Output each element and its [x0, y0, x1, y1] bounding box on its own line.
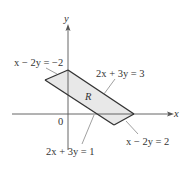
- x-axis-label: x: [173, 108, 179, 119]
- label-bottom-right: x − 2y = 2: [126, 136, 169, 147]
- origin-label: 0: [58, 116, 63, 127]
- label-top-left: x − 2y = −2: [14, 57, 63, 68]
- leader-top-left: [46, 68, 57, 74]
- leader-bottom-left: [82, 115, 94, 144]
- leader-top-right: [104, 79, 115, 94]
- region-label: R: [84, 91, 92, 102]
- label-bottom-left: 2x + 3y = 1: [46, 146, 95, 157]
- region-diagram: y x 0 R x − 2y = −2 2x + 3y = 3 2x + 3y …: [0, 0, 187, 169]
- y-axis-label: y: [63, 13, 69, 24]
- label-top-right: 2x + 3y = 3: [96, 68, 145, 79]
- leader-bottom-right: [126, 121, 138, 134]
